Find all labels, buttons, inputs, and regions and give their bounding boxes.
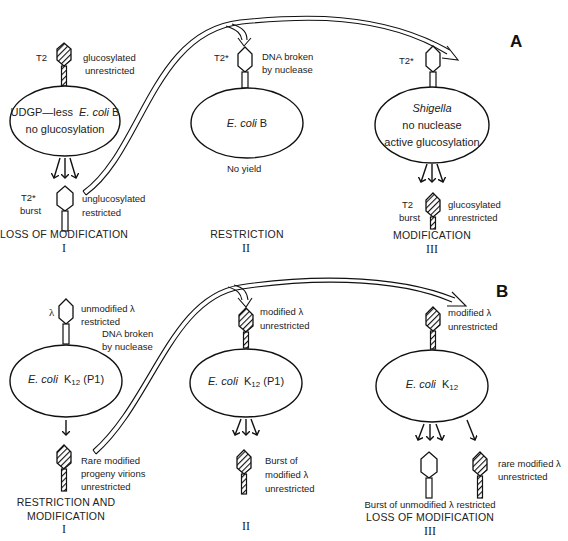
a2-phage-in-desc-2: by nuclease xyxy=(262,64,313,76)
a3-cell-line3: active glucosylation xyxy=(384,134,479,151)
a3-phage-out-name: T2 xyxy=(402,199,413,211)
burst-arrows-a3-icon xyxy=(421,164,443,182)
b3-caption: LOSS OF MODIFICATION xyxy=(366,511,494,524)
a2-caption: RESTRICTION xyxy=(210,228,283,241)
b2-phage-out-desc-1: Burst of xyxy=(265,455,298,467)
a1-phage-out-burst: burst xyxy=(20,205,41,217)
a1-cell-species: E. coli xyxy=(79,106,109,118)
burst-arrows-a1-icon xyxy=(54,158,76,178)
a2-yield: No yield xyxy=(227,163,261,175)
a1-numeral: I xyxy=(62,241,66,256)
a3-cell-line2: no nuclease xyxy=(384,117,479,134)
phage-b2-out-icon xyxy=(237,450,251,494)
a3-phage-out-desc-2: unrestricted xyxy=(448,212,498,224)
b1-caption-2: MODIFICATION xyxy=(27,510,105,523)
phage-b1-out-icon xyxy=(57,445,71,491)
phage-b2-in-icon xyxy=(239,308,253,348)
a3-numeral: III xyxy=(426,242,438,257)
b3-phage-in-desc-1: modified λ xyxy=(448,307,491,319)
b1-nuclease-1: DNA broken xyxy=(102,328,153,340)
phage-a2-in-icon xyxy=(238,47,252,88)
phage-a1-out-icon xyxy=(57,186,73,231)
a1-cell-line2: no glucosylation xyxy=(11,121,120,138)
a1-cell-label: UDGP—less E. coli B no glucosylation xyxy=(11,104,120,138)
phage-b3-unmodified-icon xyxy=(421,452,437,498)
a2-cell-strain: B xyxy=(260,117,267,129)
phage-b1-in-icon xyxy=(59,299,73,344)
a1-phage-in-desc-1: glucosylated xyxy=(83,52,136,64)
b1-caption-1: RESTRICTION AND xyxy=(17,496,116,509)
b1-cell-sub: 12 xyxy=(71,378,80,387)
a3-phage-out-burst: burst xyxy=(399,212,420,224)
a1-phage-in-desc-2: unrestricted xyxy=(85,65,135,77)
a3-phage-in-name: T2* xyxy=(399,55,414,67)
b3-burst-desc: Burst of unmodified λ restricted xyxy=(365,499,496,511)
b2-phage-in-desc-1: modified λ xyxy=(260,306,303,318)
a1-phage-out-name: T2* xyxy=(21,192,36,204)
b2-cell-plasmid: (P1) xyxy=(263,375,284,387)
a2-cell-label: E. coli B xyxy=(227,115,267,132)
b1-nuclease-2: by nuclease xyxy=(102,341,153,353)
a1-cell-strain: B xyxy=(112,106,119,118)
phage-a3-in-icon xyxy=(426,46,440,88)
b2-phage-in-desc-2: unrestricted xyxy=(260,320,310,332)
phage-a3-out-icon xyxy=(426,193,440,229)
b1-phage-out-desc-1: Rare modified xyxy=(81,455,140,467)
b1-phage-out-desc-3: unrestricted xyxy=(81,481,131,493)
a3-cell-species: Shigella xyxy=(384,100,479,117)
b2-cell-label: E. coli K12 (P1) xyxy=(208,373,284,393)
b1-phage-in-desc-1: unmodified λ xyxy=(81,303,135,315)
burst-arrows-b3-icon xyxy=(418,420,475,440)
panel-label-b: B xyxy=(496,282,508,302)
panel-label-a: A xyxy=(510,32,522,52)
b1-phage-in-desc-2: restricted xyxy=(81,316,120,328)
b2-cell-species: E. coli xyxy=(208,375,238,387)
a2-cell-species: E. coli xyxy=(227,117,257,129)
a3-cell-label: Shigella no nuclease active glucosylatio… xyxy=(384,100,479,151)
a3-caption: MODIFICATION xyxy=(393,229,471,242)
a3-phage-out-desc-1: glucosylated xyxy=(448,199,501,211)
b1-phage-out-desc-2: progeny virions xyxy=(81,468,145,480)
phage-b3-in-icon xyxy=(426,307,440,349)
b2-numeral: II xyxy=(242,519,250,534)
b2-phage-out-desc-3: unrestricted xyxy=(265,483,315,495)
phage-b3-rare-modified-icon xyxy=(473,452,487,498)
phage-a1-in-icon xyxy=(57,43,71,86)
b2-cell-sub: 12 xyxy=(251,380,260,389)
b3-cell-sub: 12 xyxy=(449,383,458,392)
b1-phage-in-name: λ xyxy=(49,306,54,318)
b3-phage-in-desc-2: unrestricted xyxy=(448,321,498,333)
a2-numeral: II xyxy=(242,241,250,256)
a1-phage-out-desc-2: restricted xyxy=(82,207,121,219)
b3-cell-label: E. coli K12 xyxy=(406,376,458,396)
b3-cell-species: E. coli xyxy=(406,378,436,390)
a2-phage-in-desc-1: DNA broken xyxy=(262,51,313,63)
b3-numeral: III xyxy=(424,524,436,539)
a1-caption: LOSS OF MODIFICATION xyxy=(0,228,128,241)
b3-rare-desc-2: unrestricted xyxy=(498,471,548,483)
b3-rare-desc-1: rare modified λ xyxy=(498,458,561,470)
b1-cell-plasmid: (P1) xyxy=(83,373,104,385)
a2-phage-in-name: T2* xyxy=(214,52,229,64)
b1-numeral: I xyxy=(62,522,66,537)
b1-cell-species: E. coli xyxy=(28,373,58,385)
a1-cell-prefix: UDGP—less xyxy=(11,106,73,118)
a1-phage-in-name: T2 xyxy=(36,52,47,64)
b2-phage-out-desc-2: modified λ xyxy=(265,469,308,481)
b1-cell-label: E. coli K12 (P1) xyxy=(28,371,104,391)
a1-phage-out-desc-1: unglucosylated xyxy=(82,193,145,205)
burst-arrows-b2-icon xyxy=(235,419,257,435)
